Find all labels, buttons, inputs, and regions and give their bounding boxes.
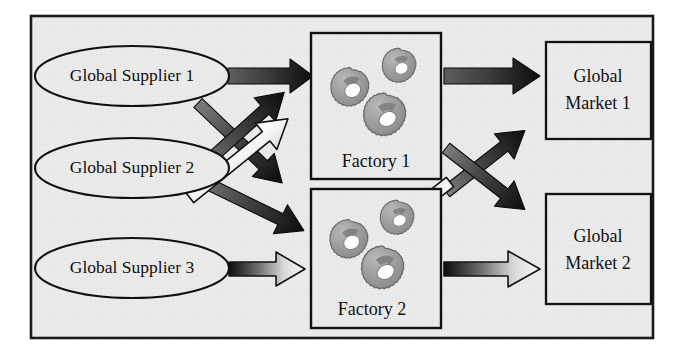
supplier-1-label: Global Supplier 1 [70,65,194,85]
factory-2-label: Factory 2 [338,299,406,319]
market-node-1[interactable]: Global Market 1 [546,42,651,139]
market-node-2[interactable]: Global Market 2 [546,194,651,304]
supplier-node-3[interactable]: Global Supplier 3 [35,238,229,298]
market-2-label-line1: Global [574,226,623,246]
supplier-node-1[interactable]: Global Supplier 1 [35,46,229,106]
market-2-label-line2: Market 2 [565,253,630,273]
market-1-box [546,42,651,139]
factory-node-1[interactable]: Factory 1 [311,33,441,179]
market-1-label-line2: Market 1 [565,93,630,113]
supplier-node-2[interactable]: Global Supplier 2 [35,138,229,198]
supply-chain-diagram: Global Supplier 1 Global Supplier 2 Glob… [0,0,685,357]
supplier-3-label: Global Supplier 3 [70,257,195,277]
market-2-box [546,194,651,304]
factory-node-2[interactable]: Factory 2 [311,189,441,328]
market-1-label-line1: Global [574,66,623,86]
diagram-canvas: Global Supplier 1 Global Supplier 2 Glob… [0,0,685,357]
factory-1-label: Factory 1 [342,151,410,171]
supplier-2-label: Global Supplier 2 [70,157,194,177]
